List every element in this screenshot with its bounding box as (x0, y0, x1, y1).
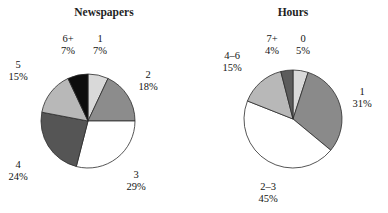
pie-label-2-3: 2–345% (258, 181, 278, 204)
pie-label-category-2-3: 2–3 (260, 181, 276, 192)
chart-title-newspapers: Newspapers (74, 6, 134, 19)
pie-label-category-5: 5 (15, 59, 20, 70)
chart-title-hours: Hours (278, 6, 309, 18)
pie-label-category-0: 0 (300, 33, 305, 44)
pie-label-4-6: 4–615% (222, 50, 242, 73)
pie-label-percent-5: 15% (8, 71, 28, 82)
pie-label-category-1: 1 (97, 33, 102, 44)
pie-label-percent-6: 7% (61, 45, 75, 56)
pie-label-percent-4: 24% (8, 171, 28, 182)
pie-slices-hours (244, 70, 342, 168)
pie-label-percent-0: 5% (296, 45, 310, 56)
pie-label-percent-4-6: 15% (222, 62, 242, 73)
pie-label-7: 7+4% (265, 33, 279, 56)
pie-label-category-7: 7+ (266, 33, 277, 44)
pie-chart-figure: Newspapers 17%218%329%424%515%6+7% Hours… (0, 0, 388, 213)
pie-slices-newspapers (41, 74, 135, 168)
pie-label-percent-3: 29% (126, 181, 146, 192)
pie-label-category-1: 1 (359, 86, 364, 97)
pie-label-percent-7: 4% (265, 45, 279, 56)
pie-label-percent-1: 31% (352, 98, 372, 109)
pie-label-category-4: 4 (15, 159, 21, 170)
pie-label-6: 6+7% (61, 33, 75, 56)
pie-label-category-2: 2 (145, 69, 150, 80)
pie-label-category-3: 3 (133, 169, 138, 180)
pie-label-percent-1: 7% (93, 45, 107, 56)
pie-label-category-6: 6+ (62, 33, 73, 44)
pie-label-category-4-6: 4–6 (224, 50, 240, 61)
pie-label-percent-2: 18% (138, 81, 158, 92)
pie-label-percent-2-3: 45% (258, 193, 278, 204)
